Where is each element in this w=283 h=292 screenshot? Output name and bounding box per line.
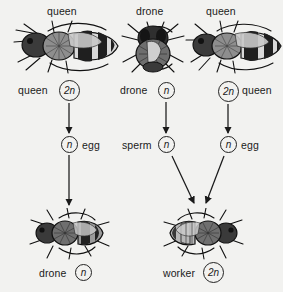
top-label-drone: drone — [136, 6, 163, 17]
drone-bee-middle — [120, 20, 188, 76]
top-label-queen-left: queen — [47, 6, 77, 17]
queen-bee-left — [8, 18, 128, 76]
gamete-ploidy-sperm: n — [158, 136, 175, 153]
parent-label-queen-right: queen — [242, 85, 272, 96]
parent-label-drone: drone — [120, 85, 147, 96]
parent-ploidy-drone: n — [158, 82, 175, 99]
queen-bee-right — [183, 18, 283, 76]
gamete-label-egg-left: egg — [82, 140, 100, 151]
worker-offspring-bee — [152, 208, 248, 260]
offspring-label-drone: drone — [39, 268, 66, 279]
offspring-ploidy-drone: n — [75, 264, 92, 281]
parent-label-queen-left: queen — [18, 85, 48, 96]
offspring-label-worker: worker — [163, 268, 195, 279]
arrow-sperm-to-worker — [172, 156, 194, 203]
bee-genetics-diagram: queen drone queen queen 2n drone n 2n qu… — [0, 0, 283, 292]
gamete-label-egg-right: egg — [241, 140, 259, 151]
parent-ploidy-queen-left: 2n — [59, 80, 80, 101]
gamete-ploidy-egg-left: n — [61, 136, 78, 153]
arrow-egg-to-worker — [206, 156, 224, 203]
offspring-ploidy-worker: 2n — [203, 262, 224, 283]
parent-ploidy-queen-right: 2n — [218, 81, 239, 102]
gamete-label-sperm: sperm — [122, 140, 152, 151]
drone-offspring-bee — [25, 208, 111, 260]
gamete-ploidy-egg-right: n — [220, 136, 237, 153]
top-label-queen-right: queen — [206, 6, 236, 17]
